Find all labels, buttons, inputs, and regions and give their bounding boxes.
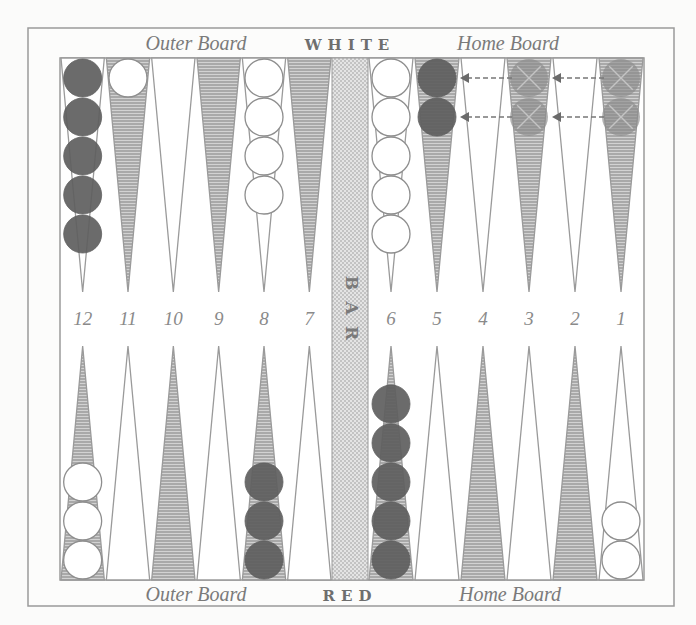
point-number-3: 3 [523,308,534,329]
point-number-5: 5 [432,308,442,329]
point-number-2: 2 [570,308,580,329]
point-number-1: 1 [616,308,626,329]
top-center-label: WHITE [304,36,396,54]
checker-red-top-12-3[interactable] [64,137,102,175]
checker-red-top-5-1[interactable] [418,59,456,97]
point-number-6: 6 [386,308,396,329]
bar[interactable] [332,58,368,580]
bottom-left-label: Outer Board [146,583,248,605]
bar-letter: A [342,300,362,315]
point-number-11: 11 [119,308,137,329]
bar-letter: B [342,276,362,290]
bar-letter: R [342,326,362,341]
checker-red-top-5-2[interactable] [418,98,456,136]
bottom-center-label: RED [323,587,378,605]
checker-red-top-12-1[interactable] [64,59,102,97]
top-right-label: Home Board [456,32,560,54]
checker-white-top-6-5[interactable] [372,215,410,253]
checker-red-top-12-5[interactable] [64,215,102,253]
checker-white-top-6-1[interactable] [372,59,410,97]
checker-white-top-8-3[interactable] [245,137,283,175]
point-number-7: 7 [305,308,316,329]
bottom-right-label: Home Board [458,583,562,605]
checker-red-bottom-6-4[interactable] [372,424,410,462]
point-number-9: 9 [214,308,224,329]
backgammon-board: Outer Board WHITE Home Board Outer Board… [0,0,696,625]
checker-red-top-12-2[interactable] [64,98,102,136]
checker-red-bottom-6-1[interactable] [372,541,410,579]
checker-white-top-6-3[interactable] [372,137,410,175]
checker-red-bottom-6-2[interactable] [372,502,410,540]
checker-white-top-8-1[interactable] [245,59,283,97]
checker-red-bottom-8-3[interactable] [245,463,283,501]
checker-white-bottom-12-2[interactable] [64,502,102,540]
checker-ghost-top-1-1 [602,59,640,97]
checker-white-bottom-12-3[interactable] [64,463,102,501]
point-number-12: 12 [73,308,93,329]
checker-ghost-top-1-2 [602,98,640,136]
checker-white-top-8-2[interactable] [245,98,283,136]
checker-white-bottom-1-2[interactable] [602,502,640,540]
point-number-4: 4 [478,308,488,329]
checker-white-top-8-4[interactable] [245,176,283,214]
checker-white-bottom-12-1[interactable] [64,541,102,579]
checker-white-top-6-2[interactable] [372,98,410,136]
checker-ghost-top-3-2 [510,98,548,136]
checker-red-bottom-8-1[interactable] [245,541,283,579]
top-left-label: Outer Board [146,32,248,54]
checker-white-top-6-4[interactable] [372,176,410,214]
checker-red-bottom-6-5[interactable] [372,385,410,423]
checker-red-bottom-6-3[interactable] [372,463,410,501]
point-number-8: 8 [259,308,269,329]
point-number-10: 10 [164,308,184,329]
checker-ghost-top-3-1 [510,59,548,97]
checker-red-top-12-4[interactable] [64,176,102,214]
checker-white-top-11-1[interactable] [109,59,147,97]
checker-red-bottom-8-2[interactable] [245,502,283,540]
checker-white-bottom-1-1[interactable] [602,541,640,579]
bar-label: BAR [342,276,362,341]
